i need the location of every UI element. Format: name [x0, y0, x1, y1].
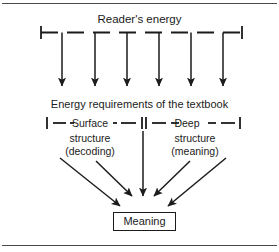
deep-meaning-line: (meaning) [150, 145, 240, 158]
surface-structure-line: structure [45, 132, 135, 145]
energy-requirements-label: Energy requirements of the textbook [0, 99, 279, 111]
surface-label: Surface [60, 118, 120, 129]
surface-structure-caption: structure (decoding) [45, 132, 135, 157]
reader-energy-arrows [62, 33, 223, 87]
surface-decoding-line: (decoding) [45, 145, 135, 158]
deep-label: Deep [163, 118, 211, 129]
meaning-label: Meaning [123, 216, 165, 227]
meaning-outcome-box: Meaning [113, 212, 176, 231]
top-bracket-group [41, 26, 242, 39]
reader-energy-title: Reader's energy [0, 13, 279, 25]
deep-structure-line: structure [150, 132, 240, 145]
diagram-figure: Reader's energy Energy requirements of t… [0, 0, 279, 252]
deep-structure-caption: structure (meaning) [150, 132, 240, 157]
